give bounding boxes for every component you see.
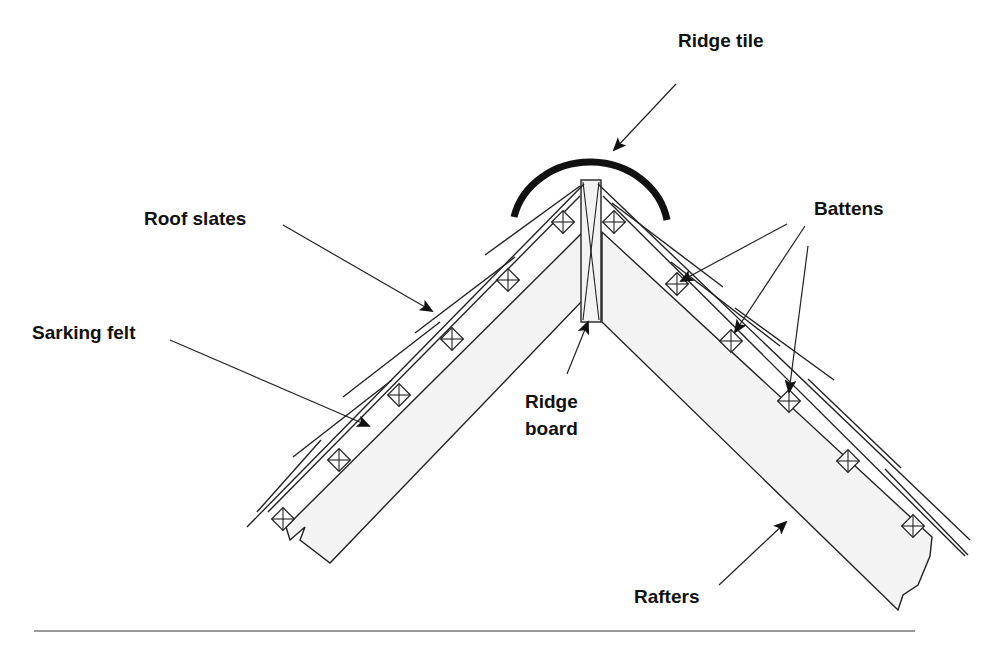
label-ridge-tile: Ridge tile bbox=[678, 30, 764, 51]
ridge-tile-arrow bbox=[614, 84, 676, 150]
batten bbox=[497, 269, 520, 292]
roof-slates-arrow bbox=[283, 225, 432, 311]
label-roof-slates: Roof slates bbox=[144, 208, 246, 229]
left-roof-slates bbox=[247, 184, 584, 527]
ridge-board bbox=[581, 180, 601, 322]
label-ridge-board-line2: board bbox=[525, 418, 578, 439]
battens-arrow-1 bbox=[681, 224, 787, 281]
roof-ridge-diagram: Ridge tile Roof slates Battens Sarking f… bbox=[0, 0, 1002, 649]
ridge-board-arrow bbox=[567, 322, 588, 374]
label-battens: Battens bbox=[814, 198, 884, 219]
label-sarking-felt: Sarking felt bbox=[32, 322, 136, 343]
rafters-arrow bbox=[719, 522, 786, 585]
sarking-felt-arrow bbox=[170, 340, 369, 426]
right-rafter bbox=[602, 232, 932, 610]
label-rafters: Rafters bbox=[634, 586, 699, 607]
left-battens bbox=[272, 211, 575, 531]
batten bbox=[666, 273, 689, 296]
label-ridge-board-line1: Ridge bbox=[525, 391, 578, 412]
battens-arrow-3 bbox=[789, 246, 808, 392]
batten bbox=[441, 328, 464, 351]
battens-arrow-2 bbox=[735, 226, 805, 332]
